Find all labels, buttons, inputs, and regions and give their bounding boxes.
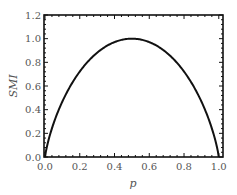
- y-tick-label: 1.2: [25, 10, 41, 21]
- y-axis-label: SMI: [7, 74, 20, 98]
- x-tick-label: 0.6: [141, 161, 157, 172]
- x-tick-label: 1.0: [211, 161, 227, 172]
- x-tick-label: 0.2: [72, 161, 88, 172]
- y-tick-label: 0.2: [25, 128, 41, 139]
- x-tick-label: 0.4: [107, 161, 123, 172]
- x-tick-label: 0.8: [176, 161, 192, 172]
- smi-line-chart: 0.00.20.40.60.81.0 0.00.20.40.60.81.01.2…: [0, 0, 237, 195]
- y-tick-label: 1.0: [25, 33, 41, 44]
- y-tick-label: 0.8: [25, 57, 41, 68]
- y-tick-label: 0.6: [25, 81, 41, 92]
- x-tick-labels: 0.00.20.40.60.81.0: [37, 161, 227, 172]
- y-tick-label: 0.0: [25, 152, 41, 163]
- x-tick-label: 0.0: [37, 161, 53, 172]
- smi-curve: [45, 39, 219, 157]
- x-axis-label: p: [129, 177, 136, 190]
- y-tick-label: 0.4: [25, 104, 41, 115]
- y-tick-labels: 0.00.20.40.60.81.01.2: [25, 10, 41, 163]
